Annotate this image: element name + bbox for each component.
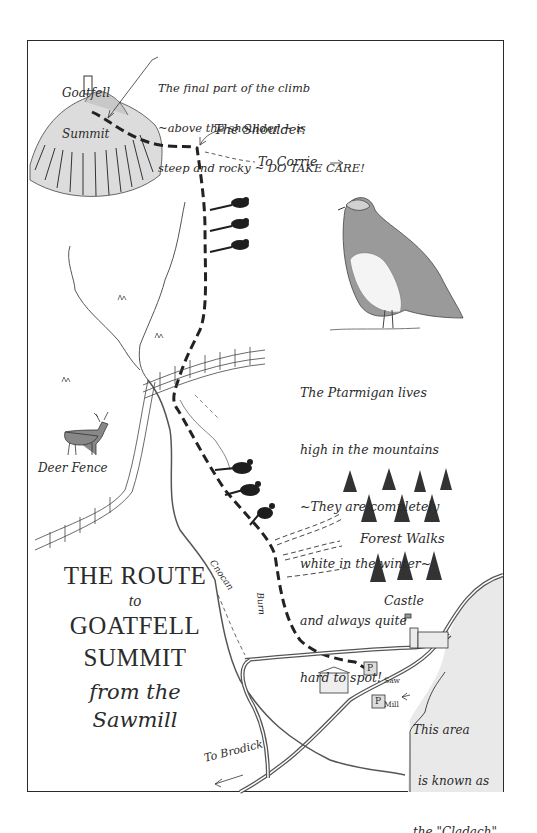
grass-tuft: [62, 295, 163, 382]
parking-label-2: P: [375, 696, 381, 706]
sawmill-label: Saw Mill: [384, 661, 400, 725]
map-title: THE ROUTE to GOATFELL SUMMIT from the Sa…: [60, 562, 210, 732]
castle-label: Castle: [384, 594, 424, 608]
cladach-note: This area is known as the "Cladach" ~ me…: [413, 688, 497, 833]
burn-label: Burn: [255, 592, 267, 615]
ptarmigan-bird-icon: [330, 198, 463, 330]
summit-label: Goatfell Summit: [62, 59, 110, 169]
deer-icon: [65, 412, 108, 455]
to-corrie-label: To Corrie: [258, 155, 317, 169]
deer-fence-label: Deer Fence: [38, 462, 108, 476]
goatfell-route-map: Goatfell Summit The final part of the cl…: [0, 0, 537, 833]
forest-walks-label: Forest Walks: [360, 532, 445, 547]
fence-icon: [35, 347, 265, 550]
shoulder-label: The Shoulder.: [214, 123, 305, 138]
parking-label: P: [367, 663, 373, 673]
hiker-silhouette-icon: [210, 197, 249, 252]
